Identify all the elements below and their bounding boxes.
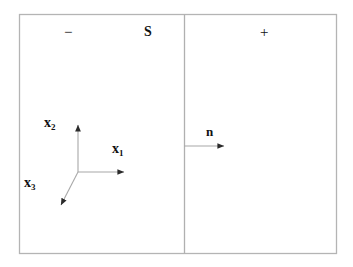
figure-canvas: − + S n x1 x2 x3: [0, 0, 353, 267]
axis-label-x1-base: x: [112, 141, 119, 156]
axis-label-x3: x3: [24, 176, 36, 190]
surface-label: S: [144, 25, 152, 39]
axis-label-x2: x2: [44, 116, 56, 130]
axis-label-x1: x1: [112, 142, 124, 156]
axis-label-x2-base: x: [44, 115, 51, 130]
axis-label-x2-subscript: 2: [51, 122, 56, 132]
axis-label-x3-subscript: 3: [31, 182, 36, 192]
negative-side-sign: −: [64, 25, 72, 40]
normal-vector-label: n: [206, 125, 213, 138]
positive-side-sign: +: [260, 25, 268, 40]
figure-vector-graphics: [0, 0, 353, 267]
axis-label-x1-subscript: 1: [119, 148, 124, 158]
outer-rectangle: [20, 15, 337, 254]
axis-label-x3-base: x: [24, 175, 31, 190]
